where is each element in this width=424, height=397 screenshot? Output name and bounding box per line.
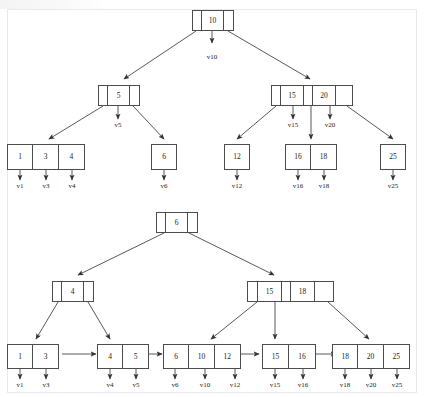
node-cell-pointer[interactable] <box>193 11 202 30</box>
lower-leaf-node[interactable]: 1 3 <box>7 344 59 369</box>
pointer-label: v15 <box>288 122 299 129</box>
pointer-label: v10 <box>200 382 211 389</box>
node-cell-pointer[interactable] <box>99 86 108 105</box>
node-cell-key[interactable]: 10 <box>202 11 225 30</box>
node-cell-key[interactable]: 3 <box>33 145 58 169</box>
pointer-label: v1 <box>17 183 24 190</box>
lower-leaf-node[interactable]: 18 20 25 <box>332 344 410 369</box>
lower-root-node[interactable]: 6 <box>156 212 198 233</box>
node-cell-key[interactable]: 16 <box>289 345 315 368</box>
upper-leaf-node[interactable]: 12 <box>224 144 250 170</box>
upper-root-node[interactable]: 10 <box>192 10 234 31</box>
node-cell-key[interactable]: 18 <box>291 282 315 301</box>
node-cell-key[interactable]: 25 <box>381 145 405 169</box>
node-cell-pointer[interactable] <box>188 213 197 232</box>
node-cell-key[interactable]: 10 <box>189 345 214 368</box>
pointer-label: v25 <box>388 183 399 190</box>
pointer-label: v18 <box>319 183 330 190</box>
upper-leaf-node[interactable]: 1 3 4 <box>7 144 85 170</box>
node-cell-pointer[interactable] <box>248 282 258 301</box>
pointer-label: v6 <box>172 382 179 389</box>
lower-leaf-node[interactable]: 6 10 12 <box>163 344 241 369</box>
node-cell-pointer[interactable] <box>315 282 325 301</box>
upper-leaf-node[interactable]: 6 <box>151 144 177 170</box>
node-cell-pointer[interactable] <box>84 282 93 301</box>
node-cell-key[interactable]: 3 <box>33 345 58 368</box>
node-cell-pointer[interactable] <box>282 282 291 301</box>
node-cell-key[interactable]: 4 <box>62 282 85 301</box>
node-cell-key[interactable]: 6 <box>166 213 189 232</box>
pointer-label: v16 <box>293 183 304 190</box>
pointer-label: v12 <box>230 382 241 389</box>
pointer-label: v4 <box>69 183 76 190</box>
node-cell-key[interactable]: 15 <box>281 86 304 105</box>
lower-internal-node-right[interactable]: 15 18 <box>247 281 334 302</box>
node-cell-key[interactable]: 25 <box>384 345 409 368</box>
node-cell-key[interactable]: 18 <box>311 145 336 169</box>
pointer-label: v1 <box>17 382 24 389</box>
node-cell-pointer[interactable] <box>224 11 233 30</box>
pointer-label: v12 <box>232 183 243 190</box>
pointer-label: v20 <box>366 382 377 389</box>
node-cell-pointer[interactable] <box>336 86 345 105</box>
node-cell-pointer[interactable] <box>272 86 281 105</box>
node-cell-key[interactable]: 20 <box>358 345 383 368</box>
lower-leaf-node[interactable]: 4 5 <box>97 344 149 369</box>
node-cell-key[interactable]: 12 <box>215 345 240 368</box>
pointer-label: v6 <box>161 183 168 190</box>
lower-internal-node-left[interactable]: 4 <box>52 281 94 302</box>
pointer-label: v20 <box>325 122 336 129</box>
node-cell-key[interactable]: 12 <box>225 145 249 169</box>
node-cell-key[interactable]: 4 <box>59 145 84 169</box>
figure-canvas: 10 5 15 20 1 3 4 6 12 16 18 25 v10 v5 v1… <box>0 0 424 397</box>
node-cell-key[interactable]: 15 <box>258 282 282 301</box>
pointer-label: v5 <box>115 122 122 129</box>
node-cell-pointer[interactable] <box>304 86 313 105</box>
node-cell-pointer[interactable] <box>157 213 166 232</box>
pointer-label: v5 <box>133 382 140 389</box>
pointer-label: v3 <box>43 382 50 389</box>
node-cell-key[interactable]: 6 <box>164 345 189 368</box>
node-cell-key[interactable]: 1 <box>8 345 33 368</box>
upper-leaf-node[interactable]: 16 18 <box>285 144 337 170</box>
node-cell-key[interactable]: 16 <box>286 145 311 169</box>
node-cell-pointer[interactable] <box>53 282 62 301</box>
pointer-label: v3 <box>43 183 50 190</box>
pointer-label: v15 <box>270 382 281 389</box>
lower-leaf-node[interactable]: 15 16 <box>262 344 316 369</box>
node-cell-key[interactable]: 5 <box>108 86 131 105</box>
node-cell-key[interactable]: 18 <box>333 345 358 368</box>
node-cell-pointer[interactable] <box>130 86 139 105</box>
pointer-label: v18 <box>340 382 351 389</box>
node-cell-key[interactable]: 5 <box>123 345 148 368</box>
node-cell-key[interactable]: 1 <box>8 145 33 169</box>
upper-internal-node-left[interactable]: 5 <box>98 85 140 106</box>
pointer-label: v16 <box>298 382 309 389</box>
node-cell-key[interactable]: 15 <box>263 345 289 368</box>
node-cell-key[interactable]: 20 <box>313 86 336 105</box>
upper-leaf-node[interactable]: 25 <box>380 144 406 170</box>
node-cell-key[interactable]: 6 <box>152 145 176 169</box>
pointer-label: v4 <box>107 382 114 389</box>
pointer-label: v25 <box>392 382 403 389</box>
node-cell-key[interactable]: 4 <box>98 345 123 368</box>
upper-internal-node-right[interactable]: 15 20 <box>271 85 353 106</box>
pointer-label: v10 <box>207 54 218 61</box>
